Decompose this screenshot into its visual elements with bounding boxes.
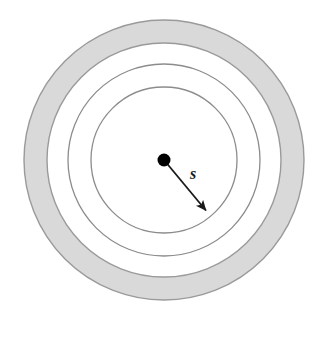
center-point-dot xyxy=(158,154,171,167)
concentric-circles-figure: Concentric circles diagram with radius v… xyxy=(0,0,318,338)
radius-label-s: s xyxy=(189,165,196,182)
radius-arrow xyxy=(164,160,206,211)
figure-root: Concentric circles diagram with radius v… xyxy=(0,0,318,338)
